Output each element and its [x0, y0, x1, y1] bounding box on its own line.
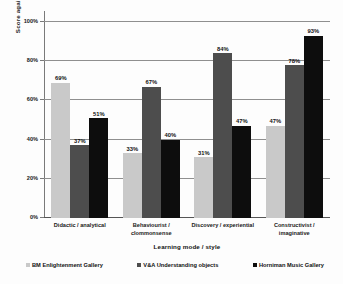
- legend-swatch-icon: [26, 263, 30, 267]
- bar-slot: 33%: [123, 22, 142, 218]
- bar[interactable]: 47%: [232, 126, 251, 218]
- bar-slot: 37%: [70, 22, 89, 218]
- bar[interactable]: 51%: [89, 118, 108, 218]
- bar[interactable]: 31%: [194, 157, 213, 218]
- legend-item[interactable]: Horniman Music Gallery: [253, 262, 324, 268]
- bar-value-label: 40%: [164, 132, 176, 138]
- x-axis-title: Learning mode / style: [44, 243, 330, 250]
- bar[interactable]: 37%: [70, 145, 89, 218]
- y-axis-tick-label: 80%: [27, 57, 38, 63]
- bar[interactable]: 33%: [123, 153, 142, 218]
- bar-value-label: 31%: [198, 150, 210, 156]
- legend-label: V&A Understanding objects: [143, 262, 218, 268]
- bar-value-label: 47%: [269, 118, 281, 124]
- x-axis-tick-labels: Didactic / analyticalBehaviourist / clom…: [44, 221, 330, 238]
- bar-chart-figure: Score against criteria 0%20%40%60%80%100…: [0, 0, 343, 284]
- bar[interactable]: 47%: [266, 126, 285, 218]
- bar[interactable]: 67%: [142, 87, 161, 218]
- legend-label: BM Enlightenment Gallery: [32, 262, 103, 268]
- bar-value-label: 33%: [126, 146, 138, 152]
- bar-slot: 47%: [266, 22, 285, 218]
- bar-slot: 69%: [51, 22, 70, 218]
- bar-slot: 78%: [285, 22, 304, 218]
- y-axis-title: Score against criteria: [14, 0, 21, 60]
- legend-item[interactable]: V&A Understanding objects: [137, 262, 218, 268]
- bar-value-label: 78%: [288, 58, 300, 64]
- bar-value-label: 69%: [55, 75, 67, 81]
- bar-slot: 93%: [304, 22, 323, 218]
- bar-group: 33%67%40%: [116, 22, 188, 218]
- bar-slot: 51%: [89, 22, 108, 218]
- bar-slot: 40%: [161, 22, 180, 218]
- bar-group: 47%78%93%: [259, 22, 331, 218]
- bar-slot: 67%: [142, 22, 161, 218]
- bar-slot: 31%: [194, 22, 213, 218]
- bar-group: 69%37%51%: [44, 22, 116, 218]
- bar-value-label: 37%: [74, 138, 86, 144]
- y-axis-tick-label: 40%: [27, 136, 38, 142]
- x-axis-category-label: Constructivist / imaginative: [259, 221, 331, 238]
- bar-slot: 47%: [232, 22, 251, 218]
- bar[interactable]: 84%: [213, 53, 232, 218]
- bar-value-label: 84%: [217, 46, 229, 52]
- y-axis-tick-label: 0%: [30, 214, 38, 220]
- bar[interactable]: 78%: [285, 65, 304, 218]
- x-axis-category-label: Behaviourist / clommonsense: [116, 221, 188, 238]
- legend-swatch-icon: [253, 263, 257, 267]
- bar-groups: 69%37%51%33%67%40%31%84%47%47%78%93%: [44, 22, 330, 218]
- plot-area: 0%20%40%60%80%100% 69%37%51%33%67%40%31%…: [44, 22, 330, 218]
- legend-label: Horniman Music Gallery: [259, 262, 324, 268]
- bar-value-label: 51%: [93, 111, 105, 117]
- y-axis-tick-label: 60%: [27, 96, 38, 102]
- bar-slot: 84%: [213, 22, 232, 218]
- bar-value-label: 67%: [145, 79, 157, 85]
- y-axis-title-wrapper: Score against criteria: [10, 0, 22, 225]
- bar-value-label: 47%: [236, 118, 248, 124]
- y-axis-tick-label: 20%: [27, 175, 38, 181]
- bar-group: 31%84%47%: [187, 22, 259, 218]
- bar[interactable]: 40%: [161, 140, 180, 218]
- y-axis-tick-label: 100%: [24, 18, 38, 24]
- bar[interactable]: 69%: [51, 83, 70, 218]
- legend-swatch-icon: [137, 263, 141, 267]
- chart-legend: BM Enlightenment GalleryV&A Understandin…: [20, 262, 330, 268]
- bar[interactable]: 93%: [304, 36, 323, 218]
- x-axis-category-label: Discovery / experiential: [187, 221, 259, 238]
- x-axis-category-label: Didactic / analytical: [44, 221, 116, 238]
- bar-value-label: 93%: [307, 28, 319, 34]
- legend-item[interactable]: BM Enlightenment Gallery: [26, 262, 103, 268]
